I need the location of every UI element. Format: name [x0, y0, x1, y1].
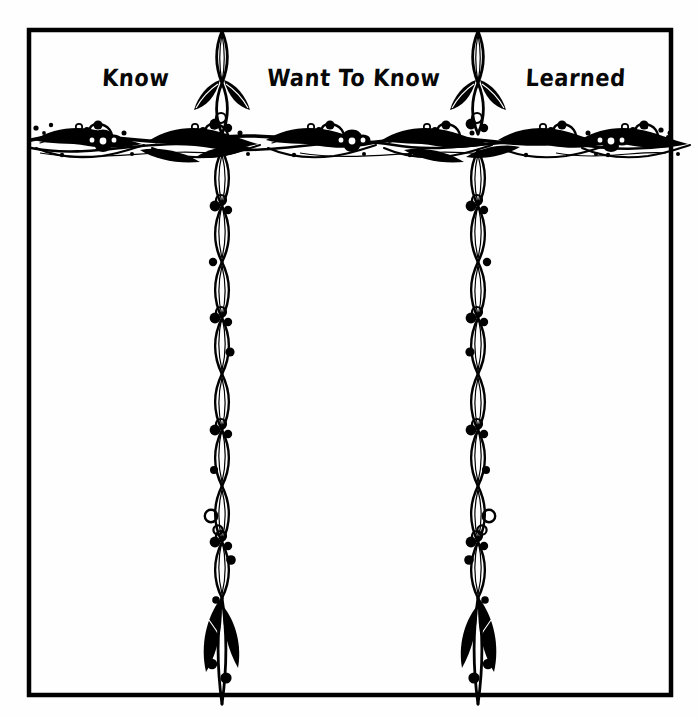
worksheet-artwork [0, 0, 699, 716]
column-header-learned: Learned [500, 65, 651, 92]
horizontal-vine-divider [31, 120, 690, 162]
column-header-know: Know [60, 65, 211, 92]
kwl-worksheet: Know Want To Know Learned [0, 0, 699, 716]
column-header-want-to-know: Want To Know [248, 65, 459, 92]
